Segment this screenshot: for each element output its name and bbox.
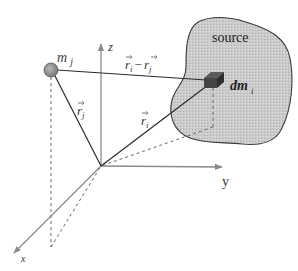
- source-label: source: [212, 30, 249, 45]
- y-axis-label: y: [222, 174, 229, 189]
- x-axis: [14, 166, 101, 253]
- vector-r-i-label: ri: [141, 111, 149, 130]
- svg-text:rj: rj: [77, 103, 85, 120]
- mj-floor-projection: [51, 166, 101, 247]
- point-mass-label: mj: [57, 50, 73, 67]
- x-axis-label: x: [20, 253, 26, 264]
- vector-diagram: z y x mj source dmi rj ri ri−rj: [0, 0, 298, 271]
- svg-text:ri: ri: [141, 113, 149, 130]
- vector-r-j-label: rj: [77, 101, 85, 120]
- vector-r-diff-label: ri−rj: [125, 55, 157, 74]
- z-axis-label: z: [107, 39, 113, 54]
- point-mass-sphere: [44, 63, 58, 77]
- svg-text:ri−rj: ri−rj: [125, 57, 152, 74]
- vector-r-j: [54, 74, 101, 166]
- y-axis: [101, 166, 222, 167]
